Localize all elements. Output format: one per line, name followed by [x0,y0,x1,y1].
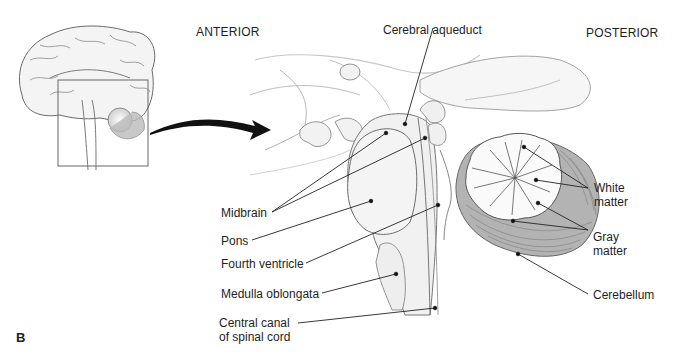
panel-label: B [16,330,25,345]
label-gray-matter-line1: Gray [593,230,627,244]
label-midbrain: Midbrain [221,206,267,220]
label-white-matter-line2: matter [594,195,628,209]
label-cerebellum: Cerebellum [593,288,654,302]
label-gray-matter: Gray matter [593,230,627,258]
label-cerebral-aqueduct: Cerebral aqueduct [383,23,482,37]
label-medulla-oblongata: Medulla oblongata [221,287,319,301]
label-central-canal-line1: Central canal [219,316,290,330]
curved-arrow-icon [150,119,271,140]
label-central-canal: Central canal of spinal cord [219,316,290,344]
label-central-canal-line2: of spinal cord [219,330,290,344]
anterior-label: ANTERIOR [196,25,260,39]
inset-brain-thumbnail [19,26,154,170]
label-white-matter-line1: White [594,181,628,195]
label-pons: Pons [221,234,248,248]
label-fourth-ventricle: Fourth ventricle [221,257,304,271]
brainstem-illustration [0,0,673,357]
label-gray-matter-line2: matter [593,244,627,258]
label-white-matter: White matter [594,181,628,209]
main-brainstem-drawing [250,55,599,315]
posterior-label: POSTERIOR [586,26,658,40]
